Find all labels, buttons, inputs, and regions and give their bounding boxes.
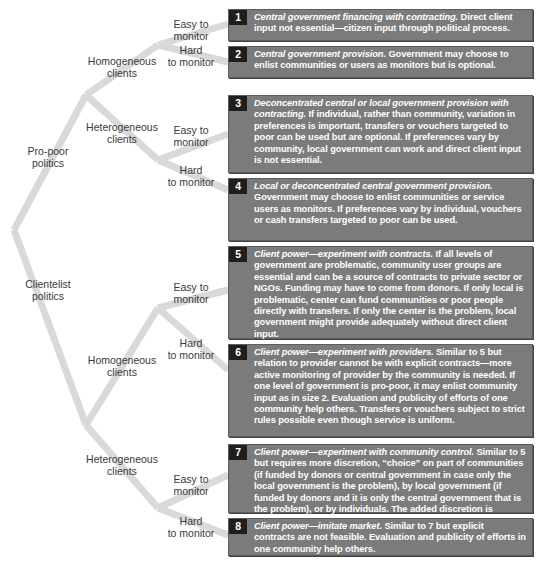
outcome-number-badge: 5 bbox=[229, 247, 247, 262]
label-clientelist-politics: Clientelist politics bbox=[25, 278, 71, 302]
outcome-number-badge: 2 bbox=[229, 47, 247, 62]
label-hard-to-monitor-6: Hard to monitor bbox=[168, 337, 215, 361]
outcome-box-4: 4 Local or deconcentrated central govern… bbox=[228, 178, 533, 241]
outcome-number-badge: 7 bbox=[229, 445, 247, 460]
label-line: clients bbox=[88, 67, 156, 79]
label-easy-to-monitor-3: Easy to monitor bbox=[173, 124, 208, 148]
label-line: Easy to bbox=[173, 124, 208, 136]
outcome-number-badge: 6 bbox=[229, 345, 247, 360]
label-line: monitor bbox=[173, 30, 208, 42]
label-line: clients bbox=[88, 366, 156, 378]
outcome-title: Client power—experiment with providers. bbox=[254, 347, 434, 357]
label-heterogeneous-clients-clientelist: Heterogeneous clients bbox=[86, 453, 158, 477]
label-line: to monitor bbox=[168, 56, 215, 68]
label-pro-poor-politics: Pro-poor politics bbox=[28, 145, 69, 169]
label-line: clients bbox=[86, 465, 158, 477]
label-homogeneous-clients-clientelist: Homogeneous clients bbox=[88, 354, 156, 378]
outcome-number-badge: 1 bbox=[229, 10, 247, 25]
label-hard-to-monitor-2: Hard to monitor bbox=[168, 44, 215, 68]
label-easy-to-monitor-5: Easy to monitor bbox=[173, 281, 208, 305]
label-line: Heterogeneous bbox=[86, 453, 158, 465]
label-line: monitor bbox=[173, 293, 208, 305]
label-line: Hard bbox=[168, 44, 215, 56]
label-line: Homogeneous bbox=[88, 354, 156, 366]
outcome-box-3: 3 Deconcentrated central or local govern… bbox=[228, 95, 533, 173]
outcome-box-2: 2 Central government provision. Governme… bbox=[228, 46, 533, 78]
outcome-box-8: 8 Client power—imitate market. Similar t… bbox=[228, 518, 533, 556]
label-line: monitor bbox=[173, 485, 208, 497]
outcome-title: Client power—imitate market. bbox=[254, 521, 382, 531]
outcome-box-7: 7 Client power—experiment with community… bbox=[228, 444, 533, 513]
label-line: monitor bbox=[173, 136, 208, 148]
outcome-title: Central government provision. bbox=[254, 49, 386, 59]
label-line: politics bbox=[28, 157, 69, 169]
label-line: Hard bbox=[168, 337, 215, 349]
outcome-title: Central government financing with contra… bbox=[254, 12, 458, 22]
label-line: Hard bbox=[168, 515, 215, 527]
label-line: Homogeneous bbox=[88, 55, 156, 67]
label-line: to monitor bbox=[168, 527, 215, 539]
outcome-number-badge: 4 bbox=[229, 179, 247, 194]
label-hard-to-monitor-4: Hard to monitor bbox=[168, 164, 215, 188]
outcome-text: Similar to 5 but relation to provider ca… bbox=[254, 347, 525, 425]
outcome-title: Local or deconcentrated central governme… bbox=[254, 181, 493, 191]
label-homogeneous-clients-propoor: Homogeneous clients bbox=[88, 55, 156, 79]
branch-root-clientelist bbox=[14, 230, 86, 425]
outcome-text: Government may choose to enlist communit… bbox=[254, 192, 522, 225]
label-heterogeneous-clients-propoor: Heterogeneous clients bbox=[86, 121, 158, 145]
outcome-number-badge: 8 bbox=[229, 519, 247, 534]
label-hard-to-monitor-8: Hard to monitor bbox=[168, 515, 215, 539]
label-line: politics bbox=[25, 290, 71, 302]
label-line: Hard bbox=[168, 164, 215, 176]
label-line: Pro-poor bbox=[28, 145, 69, 157]
outcome-title: Client power—experiment with community c… bbox=[254, 447, 474, 457]
label-line: to monitor bbox=[168, 349, 215, 361]
label-easy-to-monitor-1: Easy to monitor bbox=[173, 18, 208, 42]
outcome-box-6: 6 Client power—experiment with providers… bbox=[228, 344, 533, 437]
label-line: Easy to bbox=[173, 281, 208, 293]
outcome-box-1: 1 Central government financing with cont… bbox=[228, 9, 533, 41]
label-line: to monitor bbox=[168, 176, 215, 188]
label-line: Heterogeneous bbox=[86, 121, 158, 133]
outcome-box-5: 5 Client power—experiment with contracts… bbox=[228, 246, 533, 339]
label-line: Clientelist bbox=[25, 278, 71, 290]
outcome-number-badge: 3 bbox=[229, 96, 247, 111]
label-line: clients bbox=[86, 133, 158, 145]
label-easy-to-monitor-7: Easy to monitor bbox=[173, 473, 208, 497]
outcome-title: Client power—experiment with contracts. bbox=[254, 249, 433, 259]
label-line: Easy to bbox=[173, 473, 208, 485]
label-line: Easy to bbox=[173, 18, 208, 30]
outcome-text: If all levels of government are problema… bbox=[254, 249, 523, 339]
